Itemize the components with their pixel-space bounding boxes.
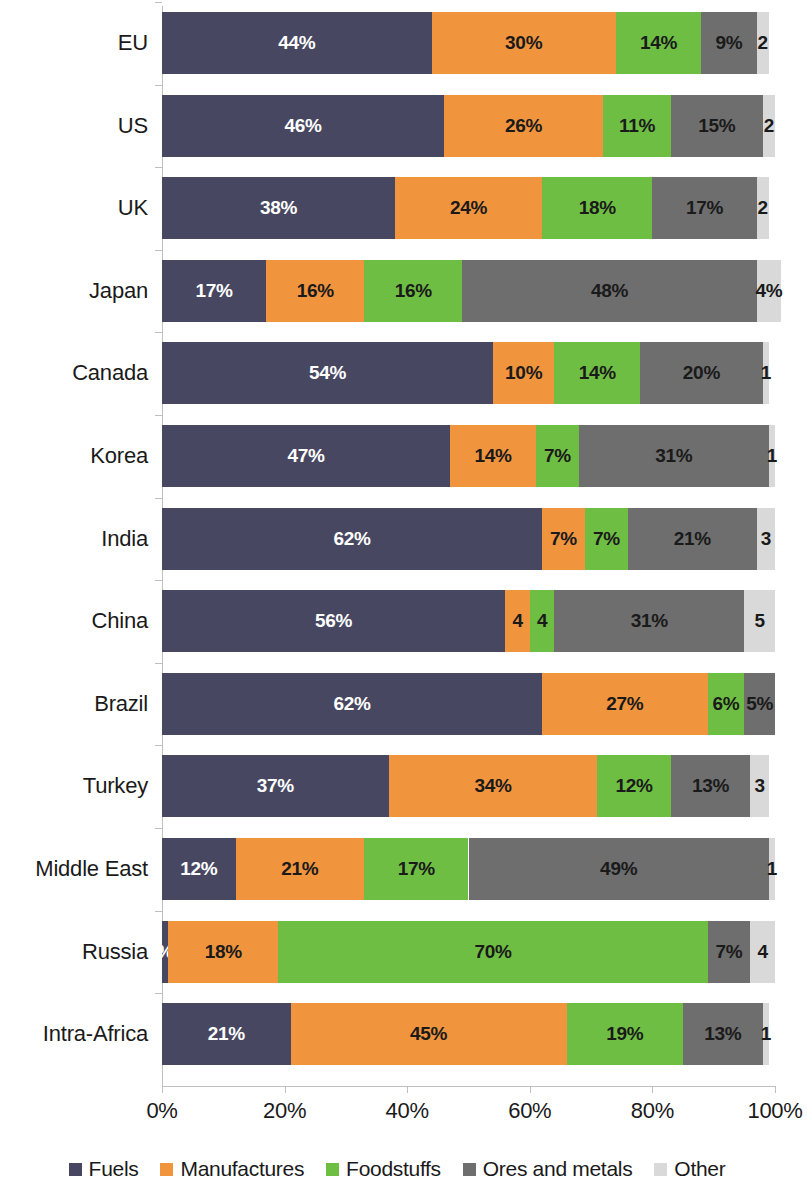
category-label-middle-east: Middle East (0, 838, 148, 900)
bar-row: 46%26%11%15%2 (162, 95, 775, 157)
bar-segment-other: 3 (750, 755, 768, 817)
legend-item-fuels[interactable]: Fuels (69, 1157, 139, 1181)
bar-segment-foodstuffs: 7% (536, 425, 579, 487)
legend-label: Ores and metals (483, 1157, 633, 1181)
bar-segment-fuels: 46% (162, 95, 444, 157)
bar-segment-fuels: 21% (162, 1003, 291, 1065)
bar-segment-value: 47% (162, 425, 450, 487)
bar-segment-foodstuffs: 19% (567, 1003, 683, 1065)
category-label-intra-africa: Intra-Africa (0, 1003, 148, 1065)
bar-segment-manufactures: 27% (542, 673, 708, 735)
x-axis-tick (775, 1086, 776, 1093)
bar-segment-value: 62% (162, 673, 542, 735)
bar-row: 38%24%18%17%2 (162, 177, 775, 239)
legend-item-ores-and-metals[interactable]: Ores and metals (463, 1157, 633, 1181)
bar-segment-fuels: 56% (162, 590, 505, 652)
x-axis-tick (652, 1086, 653, 1093)
bar-segment-foodstuffs: 12% (597, 755, 671, 817)
bar-segment-value: 21% (162, 1003, 291, 1065)
bar-segment-ores-and-metals: 31% (579, 425, 769, 487)
bar-segment-foodstuffs: 14% (616, 12, 702, 74)
x-axis-tick-label: 80% (597, 1098, 707, 1124)
bar-segment-value: 56% (162, 590, 505, 652)
bar-segment-value: 4% (743, 260, 796, 322)
y-axis-tick (155, 828, 162, 829)
x-axis-tick (530, 1086, 531, 1093)
y-axis-tick (155, 993, 162, 994)
category-label-brazil: Brazil (0, 673, 148, 735)
bar-segment-value: 7% (585, 508, 628, 570)
legend-swatch-icon (463, 1163, 476, 1176)
y-axis-tick (155, 2, 162, 3)
bar-row: 56%4431%5 (162, 590, 775, 652)
bar-segment-other: 1 (763, 1003, 769, 1065)
y-axis-tick (155, 332, 162, 333)
category-label-us: US (0, 95, 148, 157)
bar-segment-ores-and-metals: 5% (744, 673, 775, 735)
bar-segment-foodstuffs: 14% (554, 342, 640, 404)
bar-segment-value: 46% (162, 95, 444, 157)
bar-segment-value: 3 (743, 508, 789, 570)
category-label-uk: UK (0, 177, 148, 239)
chart-legend: FuelsManufacturesFoodstuffsOres and meta… (0, 1152, 794, 1186)
bar-segment-value: 14% (450, 425, 536, 487)
y-axis-tick (155, 911, 162, 912)
category-label-japan: Japan (0, 260, 148, 322)
bar-segment-value: 24% (395, 177, 542, 239)
legend-item-foodstuffs[interactable]: Foodstuffs (326, 1157, 441, 1181)
category-label-india: India (0, 508, 148, 570)
category-label-russia: Russia (0, 921, 148, 983)
bar-segment-fuels: 62% (162, 508, 542, 570)
bar-segment-value: 21% (628, 508, 757, 570)
bar-segment-ores-and-metals: 48% (462, 260, 756, 322)
bar-segment-value: 5% (730, 673, 789, 735)
bar-segment-value: 1 (749, 342, 783, 404)
legend-item-other[interactable]: Other (654, 1157, 725, 1181)
x-axis-line (162, 1086, 776, 1087)
bar-segment-manufactures: 24% (395, 177, 542, 239)
y-axis-tick (155, 415, 162, 416)
bar-segment-value: 1 (755, 838, 789, 900)
bar-segment-ores-and-metals: 31% (554, 590, 744, 652)
bar-segment-value: 2 (749, 95, 789, 157)
bar-segment-fuels: 54% (162, 342, 493, 404)
bar-segment-ores-and-metals: 17% (652, 177, 756, 239)
bar-segment-value: 31% (579, 425, 769, 487)
bar-segment-value: 31% (554, 590, 744, 652)
bar-segment-manufactures: 26% (444, 95, 603, 157)
legend-item-manufactures[interactable]: Manufactures (160, 1157, 304, 1181)
bar-segment-value: 1 (755, 425, 789, 487)
bar-segment-value: 18% (168, 921, 278, 983)
category-label-china: China (0, 590, 148, 652)
bar-segment-fuels: 38% (162, 177, 395, 239)
bar-segment-other: 4% (757, 260, 782, 322)
bar-segment-value: 17% (652, 177, 756, 239)
bar-segment-value: 26% (444, 95, 603, 157)
bar-segment-value: 12% (162, 838, 236, 900)
category-label-eu: EU (0, 12, 148, 74)
bar-segment-other: 1 (769, 838, 775, 900)
bar-row: 21%45%19%13%1 (162, 1003, 775, 1065)
bar-segment-other: 1 (769, 425, 775, 487)
bar-segment-fuels: 17% (162, 260, 266, 322)
legend-label: Other (674, 1157, 725, 1181)
category-label-korea: Korea (0, 425, 148, 487)
bar-segment-value: 34% (389, 755, 597, 817)
bar-row: 37%34%12%13%3 (162, 755, 775, 817)
bar-segment-value: 20% (640, 342, 763, 404)
bar-row: 54%10%14%20%1 (162, 342, 775, 404)
y-axis-tick (155, 745, 162, 746)
bar-segment-value: 49% (469, 838, 769, 900)
bar-segment-value: 1 (749, 1003, 783, 1065)
bar-segment-value: 2 (743, 177, 783, 239)
bar-segment-value: 16% (266, 260, 364, 322)
bar-segment-value: 11% (603, 95, 670, 157)
bar-segment-value: 21% (236, 838, 365, 900)
bar-segment-manufactures: 30% (432, 12, 616, 74)
bar-segment-fuels: 12% (162, 838, 236, 900)
bar-segment-value: 18% (542, 177, 652, 239)
bar-segment-other: 3 (757, 508, 775, 570)
bar-segment-value: 7% (542, 508, 585, 570)
x-axis-tick (285, 1086, 286, 1093)
